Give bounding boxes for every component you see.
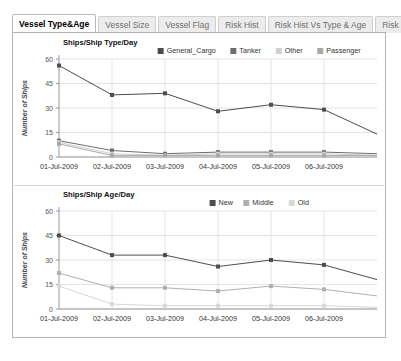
- tab-label: Vessel Type&Age: [19, 19, 89, 29]
- data-point: [57, 64, 61, 68]
- data-point: [110, 286, 114, 290]
- data-point: [269, 153, 273, 157]
- x-tick-label: 02-Jul-2009: [93, 314, 131, 323]
- x-tick-label: 06-Jul-2009: [305, 314, 343, 323]
- y-tick-label: 30: [45, 257, 53, 264]
- data-point: [163, 253, 167, 257]
- y-tick-label: 45: [45, 80, 53, 87]
- tab-vessel-type-age[interactable]: Vessel Type&Age: [12, 14, 96, 33]
- chart-ships-ship-type-day: Ships/Ship Type/DayGeneral_CargoTankerOt…: [13, 33, 385, 185]
- y-tick-label: 0: [49, 154, 53, 161]
- x-tick-label: 04-Jul-2009: [199, 162, 237, 171]
- chart-panel: Ships/Ship Type/DayGeneral_CargoTankerOt…: [12, 32, 386, 338]
- data-point: [269, 304, 273, 308]
- data-point: [57, 234, 61, 238]
- chart-title: Ships/Ship Age/Day: [63, 190, 135, 199]
- chart-legend: General_CargoTankerOtherPassenger: [158, 46, 362, 55]
- y-tick-label: 60: [45, 208, 53, 215]
- tab-label: Vessel Flag: [165, 20, 209, 30]
- data-point: [110, 302, 114, 306]
- data-point: [110, 253, 114, 257]
- legend-label: Passenger: [326, 46, 361, 55]
- legend-swatch: [243, 200, 249, 206]
- x-tick-label: 04-Jul-2009: [199, 314, 237, 323]
- data-point: [322, 287, 326, 291]
- x-tick-label: 06-Jul-2009: [305, 162, 343, 171]
- x-tick-label: 01-Jul-2009: [40, 162, 78, 171]
- data-point: [216, 304, 220, 308]
- tab-risk-hist-vs-flag-size[interactable]: Risk Hist Vs Flag & Size: [375, 16, 401, 33]
- vessel-statistics-app: Vessel Type&AgeVessel SizeVessel FlagRis…: [0, 0, 401, 361]
- data-point: [322, 304, 326, 308]
- data-point: [57, 284, 61, 288]
- data-point: [216, 289, 220, 293]
- chart-svg-type: Ships/Ship Type/DayGeneral_CargoTankerOt…: [13, 33, 385, 185]
- x-tick-label: 01-Jul-2009: [40, 314, 78, 323]
- data-point: [216, 265, 220, 269]
- series-general-cargo: [57, 64, 377, 135]
- tab-risk-hist-vs-type-age[interactable]: Risk Hist Vs Type & Age: [268, 16, 374, 33]
- data-point: [216, 153, 220, 157]
- series-new: [57, 234, 377, 280]
- data-point: [322, 263, 326, 267]
- data-point: [163, 304, 167, 308]
- data-point: [269, 103, 273, 107]
- y-tick-label: 15: [45, 129, 53, 136]
- data-point: [269, 258, 273, 262]
- legend-swatch: [289, 200, 295, 206]
- y-tick-label: 15: [45, 281, 53, 288]
- y-axis-label: Number of Ships: [21, 80, 29, 136]
- data-point: [110, 93, 114, 97]
- legend-swatch: [317, 48, 323, 54]
- y-tick-label: 0: [49, 306, 53, 313]
- x-tick-label: 03-Jul-2009: [146, 162, 184, 171]
- tab-vessel-size[interactable]: Vessel Size: [98, 16, 156, 33]
- x-tick-label: 03-Jul-2009: [146, 314, 184, 323]
- legend-swatch: [230, 48, 236, 54]
- chart-ships-ship-age-day: Ships/Ship Age/DayNewMiddleOld015304560N…: [13, 185, 385, 337]
- tab-vessel-flag[interactable]: Vessel Flag: [158, 16, 216, 33]
- tab-label: Risk Hist: [225, 20, 259, 30]
- legend-swatch: [276, 48, 282, 54]
- data-point: [57, 271, 61, 275]
- y-tick-label: 30: [45, 105, 53, 112]
- data-point: [216, 109, 220, 113]
- legend-label: Middle: [252, 198, 273, 207]
- data-point: [163, 91, 167, 95]
- tab-risk-hist[interactable]: Risk Hist: [218, 16, 266, 33]
- data-point: [322, 108, 326, 112]
- chart-svg-age: Ships/Ship Age/DayNewMiddleOld015304560N…: [13, 185, 385, 337]
- y-tick-label: 60: [45, 56, 53, 63]
- x-tick-label: 05-Jul-2009: [252, 162, 290, 171]
- chart-legend: NewMiddleOld: [210, 198, 309, 207]
- data-point: [163, 153, 167, 157]
- tab-bar: Vessel Type&AgeVessel SizeVessel FlagRis…: [12, 14, 401, 33]
- tab-label: Vessel Size: [105, 20, 149, 30]
- y-axis-label: Number of Ships: [21, 232, 29, 288]
- data-point: [110, 153, 114, 157]
- data-point: [269, 284, 273, 288]
- legend-label: Tanker: [239, 46, 261, 55]
- data-point: [322, 153, 326, 157]
- series-old: [57, 284, 377, 308]
- x-tick-label: 02-Jul-2009: [93, 162, 131, 171]
- tab-label: Risk Hist Vs Flag & Size: [382, 20, 401, 30]
- legend-label: Old: [298, 198, 309, 207]
- legend-swatch: [158, 48, 164, 54]
- legend-label: New: [219, 198, 234, 207]
- tab-label: Risk Hist Vs Type & Age: [275, 20, 367, 30]
- x-tick-label: 05-Jul-2009: [252, 314, 290, 323]
- legend-swatch: [210, 200, 216, 206]
- y-tick-label: 45: [45, 232, 53, 239]
- data-point: [163, 286, 167, 290]
- data-point: [57, 142, 61, 146]
- series-middle: [57, 271, 377, 296]
- legend-label: General_Cargo: [167, 46, 216, 55]
- legend-label: Other: [285, 46, 304, 55]
- chart-title: Ships/Ship Type/Day: [63, 38, 138, 47]
